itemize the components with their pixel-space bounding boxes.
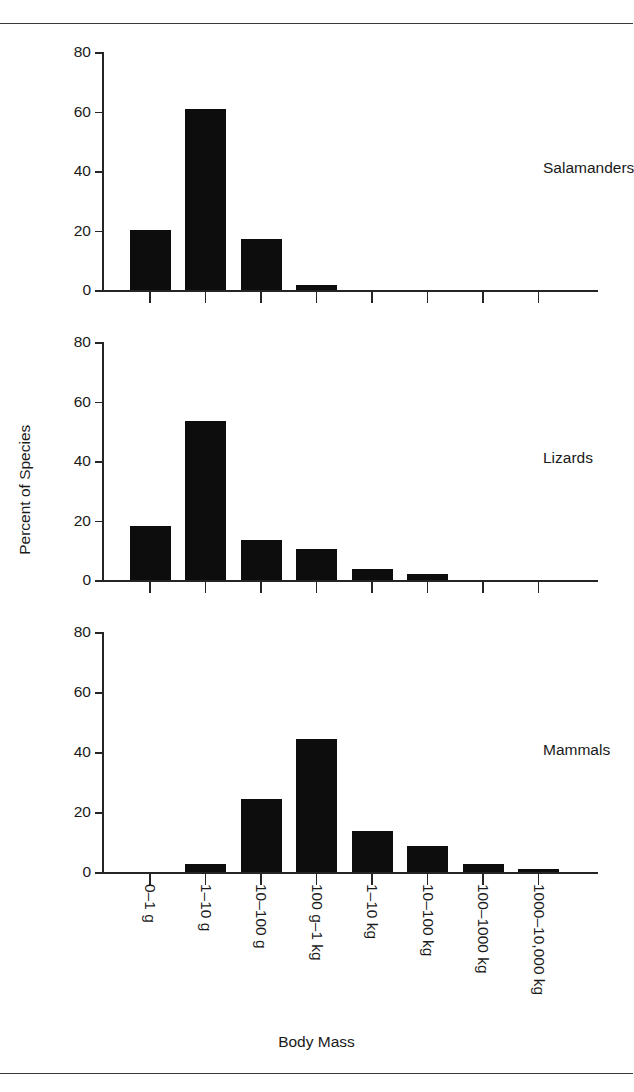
y-axis-tick — [95, 812, 102, 814]
y-axis-tick — [95, 402, 102, 404]
y-axis-tick-label: 40 — [74, 453, 91, 469]
y-axis-tick — [95, 342, 102, 344]
y-axis-title-text: Percent of Species — [17, 425, 33, 555]
bar — [185, 421, 226, 580]
x-axis-tick — [482, 874, 484, 885]
x-axis-spine — [102, 872, 598, 874]
x-axis-tick — [205, 874, 207, 885]
x-axis-tick — [316, 874, 318, 885]
y-axis-tick-label: 80 — [74, 624, 91, 640]
y-axis-tick — [95, 872, 102, 874]
x-axis-category-label: 1–10 g — [197, 884, 215, 1034]
y-axis-tick-label: 20 — [74, 804, 91, 820]
x-axis-category-label: 10–100 kg — [419, 884, 437, 1034]
bar — [241, 799, 282, 873]
y-axis-tick-label: 60 — [74, 104, 91, 120]
bar — [130, 230, 171, 290]
y-axis-tick — [95, 171, 102, 173]
y-axis-tick-label: 40 — [74, 744, 91, 760]
bar — [241, 540, 282, 580]
bar — [185, 109, 226, 290]
y-axis-tick-label: 80 — [74, 334, 91, 350]
x-axis-category-label-text: 0–1 g — [142, 884, 158, 923]
x-axis-category-label-text: 100 g–1 kg — [309, 884, 325, 961]
y-axis-tick-label: 40 — [74, 163, 91, 179]
bar — [407, 846, 448, 872]
y-axis-tick-label: 20 — [74, 513, 91, 529]
series-label-lizards: Lizards — [543, 450, 593, 466]
x-axis-category-label-text: 100–1000 kg — [475, 884, 491, 974]
x-axis-category-label: 0–1 g — [141, 884, 159, 1034]
plot-area-mammals: 020406080Mammals — [102, 632, 598, 872]
bar — [130, 526, 171, 580]
x-axis-tick — [260, 874, 262, 885]
x-axis-category-label-text: 1–10 g — [198, 884, 214, 931]
y-axis-spine — [102, 342, 104, 580]
x-axis-category-label: 1000–10,000 kg — [530, 884, 548, 1034]
y-axis-tick-label: 20 — [74, 223, 91, 239]
x-axis-category-label-text: 1000–10,000 kg — [531, 884, 547, 995]
x-axis-title: Body Mass — [0, 1034, 633, 1050]
bar — [185, 864, 226, 872]
y-axis-tick-label: 60 — [74, 684, 91, 700]
y-axis-tick-label: 60 — [74, 394, 91, 410]
y-axis-title: Percent of Species — [13, 370, 37, 610]
bar — [241, 239, 282, 290]
y-axis-tick-label: 0 — [82, 864, 91, 880]
panel-mammals: 020406080Mammals — [0, 582, 633, 902]
y-axis-tick — [95, 231, 102, 233]
plot-area-salamanders: 020406080Salamanders — [102, 52, 598, 290]
x-axis-tick — [371, 874, 373, 885]
x-axis-tick — [427, 874, 429, 885]
x-axis-category-label: 1–10 kg — [363, 884, 381, 1034]
y-axis-tick — [95, 112, 102, 114]
plot-area-lizards: 020406080Lizards — [102, 342, 598, 580]
y-axis-tick — [95, 692, 102, 694]
bar — [296, 739, 337, 873]
bar — [296, 549, 337, 580]
x-axis-category-label: 100–1000 kg — [474, 884, 492, 1034]
y-axis-tick — [95, 632, 102, 634]
bar — [463, 864, 504, 872]
x-axis-category-label-text: 10–100 g — [253, 884, 269, 949]
series-label-mammals: Mammals — [543, 742, 610, 758]
x-axis-category-label: 10–100 g — [252, 884, 270, 1034]
x-axis-tick — [149, 874, 151, 885]
x-axis-category-labels: 0–1 g1–10 g10–100 g100 g–1 kg1–10 kg10–1… — [0, 884, 633, 1034]
y-axis-tick — [95, 521, 102, 523]
y-axis-tick — [95, 461, 102, 463]
x-axis-category-label: 100 g–1 kg — [308, 884, 326, 1034]
bar — [407, 574, 448, 580]
panel-lizards: 020406080Lizards — [0, 290, 633, 610]
y-axis-spine — [102, 632, 104, 872]
bar — [518, 869, 559, 872]
figure-bottom-rule — [0, 1073, 633, 1074]
x-axis-category-label-text: 1–10 kg — [364, 884, 380, 939]
x-axis-category-label-text: 10–100 kg — [420, 884, 436, 956]
y-axis-tick — [95, 752, 102, 754]
panel-salamanders: 020406080Salamanders — [0, 0, 633, 320]
series-label-salamanders: Salamanders — [543, 160, 634, 176]
bar — [352, 831, 393, 872]
x-axis-tick — [538, 874, 540, 885]
bar — [352, 569, 393, 580]
y-axis-tick-label: 80 — [74, 44, 91, 60]
y-axis-spine — [102, 52, 104, 290]
y-axis-tick — [95, 52, 102, 54]
